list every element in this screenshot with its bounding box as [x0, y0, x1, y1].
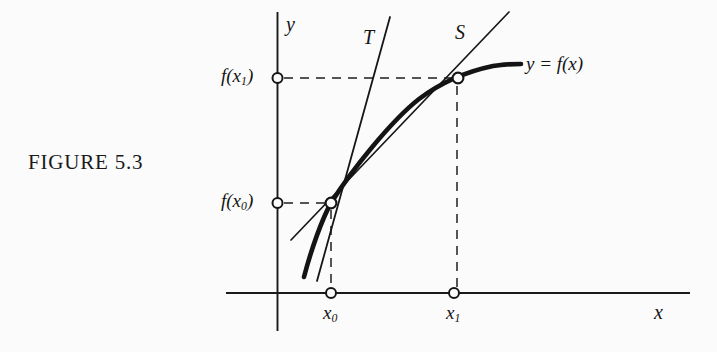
y-tick-label-f-x0-close: )	[247, 190, 253, 211]
x-tick-label-x0: x0	[323, 303, 337, 324]
tick-marker-x1	[449, 288, 459, 298]
secant-line-S	[291, 12, 509, 240]
figure-caption: FIGURE 5.3	[28, 150, 143, 175]
figure-page: FIGURE 5.3 y x T S y = f(x) f(x1) f(x0) …	[0, 0, 717, 352]
tick-marker-f-x1	[273, 73, 283, 83]
point-marker-x1-fx1	[453, 73, 464, 84]
curve-equation-text: y = f(x)	[526, 53, 583, 74]
tangent-line-label: T	[363, 27, 374, 47]
curve-equation-label: y = f(x)	[526, 54, 583, 73]
x-tick-label-x0-subscript: 0	[331, 312, 337, 325]
axes-group	[226, 12, 690, 331]
function-curve	[304, 64, 521, 277]
x-axis-label: x	[654, 302, 663, 322]
point-markers-group	[326, 73, 464, 209]
secant-line-label: S	[455, 22, 465, 42]
y-tick-label-f-x0-base: f(x	[221, 190, 241, 211]
y-tick-label-f-x1-base: f(x	[221, 65, 241, 86]
figure-canvas	[0, 0, 717, 352]
point-marker-x0-fx0	[326, 198, 337, 209]
tick-marker-f-x0	[273, 198, 283, 208]
function-curve-taper	[500, 64, 521, 65]
x-tick-label-x1: x1	[446, 303, 460, 324]
y-tick-label-f-x1: f(x1)	[221, 66, 253, 87]
y-tick-label-f-x1-close: )	[247, 65, 253, 86]
y-tick-label-f-x0: f(x0)	[221, 191, 253, 212]
x-tick-label-x1-subscript: 1	[454, 312, 460, 325]
tick-marker-x0	[326, 288, 336, 298]
y-axis-label: y	[286, 14, 295, 34]
